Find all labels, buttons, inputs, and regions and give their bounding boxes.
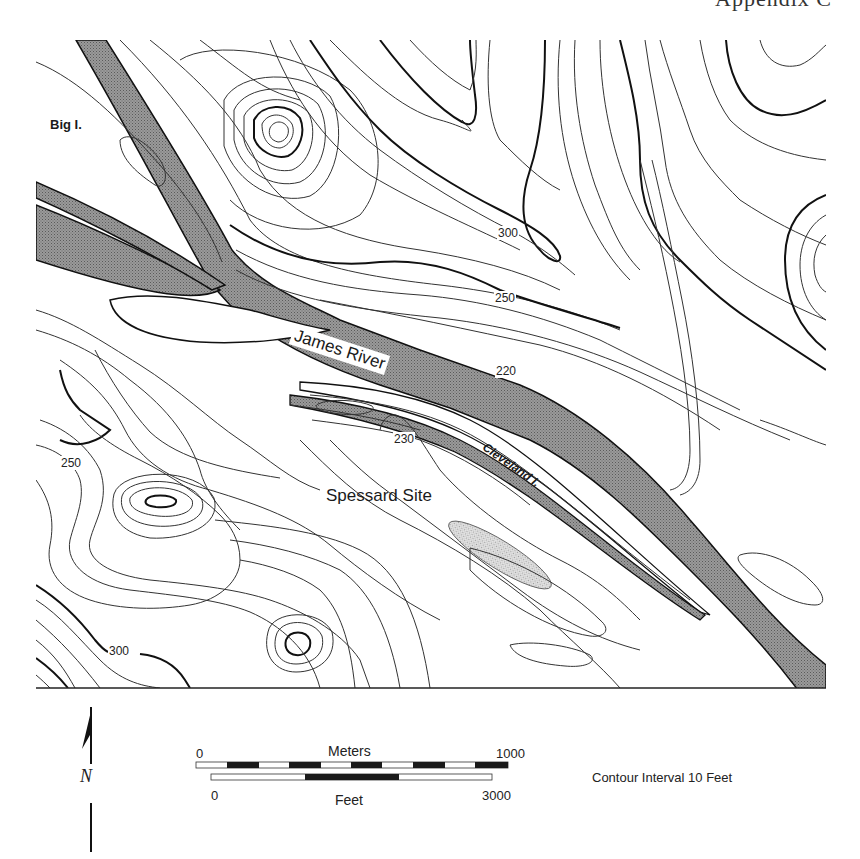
contours-north-central [270,40,680,280]
scale-feet-title: Feet [335,792,363,808]
contour-label-220: 220 [495,364,517,378]
big-island-label: Big I. [50,117,82,132]
scale-feet-end: 3000 [482,788,511,803]
spessard-site-label: Spessard Site [326,486,432,506]
spessard-site-area [442,511,559,598]
scale-feet-start: 0 [211,788,218,803]
contour-label-300-north: 300 [497,226,519,240]
contour-label-230: 230 [393,432,415,446]
contour-map-canvas [0,0,860,700]
scale-meters-title: Meters [328,743,371,759]
scale-bar [195,760,515,784]
scale-meters-start: 0 [196,746,203,761]
contour-label-300-south: 300 [108,644,130,658]
contour-label-250-south: 250 [60,456,82,470]
scale-meters-end: 1000 [496,746,525,761]
contour-label-250-north: 250 [494,291,516,305]
contour-interval-note: Contour Interval 10 Feet [592,770,732,785]
topographic-map: Big I. James River Cleveland I. Spessard… [0,0,860,700]
north-letter: N [80,764,92,789]
